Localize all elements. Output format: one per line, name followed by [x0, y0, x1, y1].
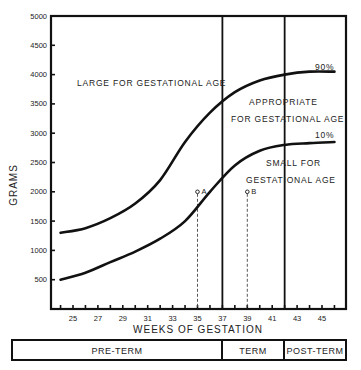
y-tick-label: 3500 [30, 99, 47, 108]
x-tick-label: 29 [119, 314, 127, 323]
x-axis-ticks: 2527293133353739414345 [61, 305, 335, 323]
x-tick-label: 33 [168, 314, 176, 323]
point-label: A [202, 187, 207, 196]
gestation-period-bands: PRE-TERM TERM POST-TERM [12, 340, 346, 360]
y-tick-label: 4500 [30, 41, 47, 50]
point-a [196, 190, 200, 194]
x-tick-label: 35 [193, 314, 201, 323]
x-tick-label: 39 [243, 314, 251, 323]
appropriate-label-line2: FOR GESTATIONAL AGE [231, 114, 344, 124]
y-tick-label: 500 [34, 275, 47, 284]
x-tick-label: 41 [268, 314, 276, 323]
y-tick-label: 2000 [30, 187, 47, 196]
y-axis-title: GRAMS [8, 164, 19, 206]
point-b [246, 190, 250, 194]
point-label: B [251, 187, 256, 196]
large-for-gestational-age-label: LARGE FOR GESTATIONAL AGE [77, 78, 226, 88]
x-axis-title: WEEKS OF GESTATION [133, 324, 263, 335]
appropriate-label-line1: APPROPRIATE [249, 97, 318, 107]
percentile-90-label: 90% [315, 62, 334, 72]
preterm-label: PRE-TERM [92, 346, 143, 356]
y-tick-label: 3000 [30, 129, 47, 138]
y-tick-label: 5000 [30, 12, 47, 21]
x-tick-label: 31 [144, 314, 152, 323]
chart: 500100015002000250030003500400045005000 … [0, 0, 361, 370]
y-tick-label: 1000 [30, 246, 47, 255]
x-tick-label: 43 [293, 314, 301, 323]
postterm-label: POST-TERM [286, 346, 343, 356]
small-label-line1: SMALL FOR [266, 158, 321, 168]
y-tick-label: 1500 [30, 217, 47, 226]
percentile-10-label: 10% [315, 130, 334, 140]
term-label: TERM [239, 346, 267, 356]
small-label-line2: GESTATIONAL AGE [246, 175, 336, 185]
y-tick-label: 4000 [30, 70, 47, 79]
x-tick-label: 37 [218, 314, 226, 323]
y-tick-label: 2500 [30, 158, 47, 167]
x-tick-label: 27 [94, 314, 102, 323]
x-tick-label: 45 [318, 314, 326, 323]
x-tick-label: 25 [69, 314, 77, 323]
